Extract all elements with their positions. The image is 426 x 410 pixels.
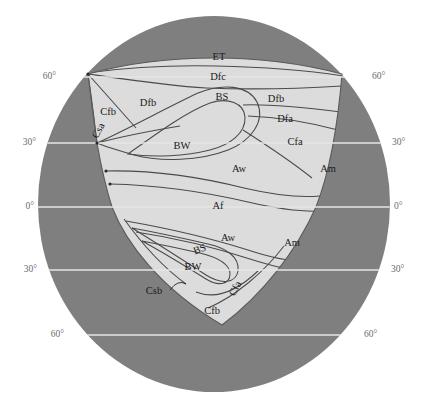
climate-label-humid-subtropical-north: Cfa — [287, 136, 303, 147]
climate-label-subarctic-humid-cool-summer: Dfc — [210, 71, 226, 82]
climate-label-mediterranean-warm-summer: Csb — [146, 285, 162, 296]
climate-label-humid-continental-hot-summer: Dfa — [277, 113, 293, 124]
latitude-label-left-30S: 30° — [24, 264, 38, 274]
latitude-label-right-30N: 30° — [392, 137, 406, 147]
latitude-label-right-0: 0° — [394, 201, 403, 211]
climate-label-tundra: ET — [213, 51, 226, 62]
latitude-label-left-60N: 60° — [43, 71, 57, 81]
latitude-label-right-30S: 30° — [391, 264, 405, 274]
climate-label-tropical-monsoon-north: Am — [320, 163, 336, 174]
latitude-label-left-0: 0° — [25, 201, 34, 211]
climate-label-tropical-rainforest: Af — [212, 200, 224, 211]
node-60n-coast — [86, 72, 89, 75]
latitude-label-left-60S: 60° — [51, 329, 65, 339]
climate-label-marine-west-coast-south: Cfb — [204, 305, 220, 316]
climate-label-steppe-north: BS — [216, 91, 229, 102]
node-30n-coast — [95, 141, 98, 144]
climate-label-humid-continental-warm-summer-west: Dfb — [140, 97, 156, 108]
climate-label-tropical-savanna-north: Aw — [232, 163, 247, 174]
climate-label-tropical-monsoon-south: Am — [284, 237, 300, 248]
climate-label-desert-south: BW — [185, 261, 202, 272]
climate-label-tropical-savanna-south: Aw — [221, 232, 236, 243]
climate-label-marine-west-coast-north: Cfb — [100, 106, 116, 117]
node-15n-coast — [108, 182, 111, 185]
hypothetical-continent-map: ETDfcBSDfbDfbCfbDfaCsaCfaBWAwAmAfAwAmBSB… — [0, 0, 426, 410]
climate-label-humid-continental-warm-summer-east: Dfb — [268, 93, 284, 104]
latitude-label-right-60N: 60° — [372, 71, 386, 81]
node-20n-coast — [104, 169, 107, 172]
latitude-label-right-60S: 60° — [364, 329, 378, 339]
latitude-label-left-30N: 30° — [23, 137, 37, 147]
climate-label-desert-north: BW — [174, 140, 191, 151]
climate-diagram-figure: ETDfcBSDfbDfbCfbDfaCsaCfaBWAwAmAfAwAmBSB… — [0, 0, 426, 410]
